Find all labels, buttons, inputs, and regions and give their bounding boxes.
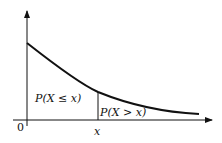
x-tick-label: x <box>94 125 101 138</box>
origin-label: 0 <box>17 121 24 134</box>
probability-diagram: P(X ≤ x) P(X > x) 0 x <box>0 0 222 143</box>
left-region-label: P(X ≤ x) <box>34 92 81 105</box>
right-region-label: P(X > x) <box>99 106 146 119</box>
